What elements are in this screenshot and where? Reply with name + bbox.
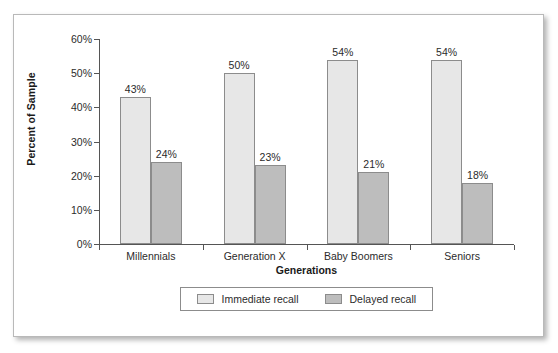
y-tick-mark xyxy=(94,210,99,211)
chart-figure-frame: Percent of Sample 0%10%20%30%40%50%60% 4… xyxy=(13,14,544,337)
bar-seniors-immediate-recall xyxy=(431,60,462,245)
bar-value-label: 21% xyxy=(351,158,397,170)
bar-millennials-immediate-recall xyxy=(120,97,151,244)
x-category-label-baby-boomers: Baby Boomers xyxy=(298,250,418,262)
y-tick-mark xyxy=(94,107,99,108)
y-tick-mark xyxy=(94,142,99,143)
bar-baby-boomers-immediate-recall xyxy=(327,60,358,245)
bar-value-label: 18% xyxy=(455,169,501,181)
y-tick-mark xyxy=(94,73,99,74)
x-category-label-millennials: Millennials xyxy=(91,250,211,262)
y-tick-label: 60% xyxy=(46,34,92,44)
bar-seniors-delayed-recall xyxy=(462,183,493,245)
chart-legend: Immediate recallDelayed recall xyxy=(180,287,434,311)
legend-label: Delayed recall xyxy=(350,293,417,305)
legend-entry-delayed-recall[interactable]: Delayed recall xyxy=(325,293,417,305)
x-category-label-seniors: Seniors xyxy=(402,250,522,262)
bar-generation-x-delayed-recall xyxy=(255,165,286,244)
y-tick-label: 30% xyxy=(46,137,92,147)
y-axis-tick-labels: 0%10%20%30%40%50%60% xyxy=(42,15,92,255)
y-tick-label: 10% xyxy=(46,205,92,215)
bar-value-label: 43% xyxy=(112,83,158,95)
bar-baby-boomers-delayed-recall xyxy=(358,172,389,244)
x-category-label-generation-x: Generation X xyxy=(195,250,315,262)
bar-value-label: 50% xyxy=(216,59,262,71)
bar-millennials-delayed-recall xyxy=(151,162,182,244)
y-tick-mark xyxy=(94,176,99,177)
legend-label: Immediate recall xyxy=(222,293,299,305)
bar-value-label: 54% xyxy=(424,46,470,58)
y-tick-label: 50% xyxy=(46,68,92,78)
y-tick-label: 20% xyxy=(46,171,92,181)
legend-entry-immediate-recall[interactable]: Immediate recall xyxy=(197,293,299,305)
bar-value-label: 23% xyxy=(247,151,293,163)
y-tick-mark xyxy=(94,39,99,40)
bar-value-label: 24% xyxy=(143,148,189,160)
y-axis-line xyxy=(99,39,100,245)
x-axis-title: Generations xyxy=(99,264,514,276)
bar-value-label: 54% xyxy=(320,46,366,58)
y-axis-title: Percent of Sample xyxy=(25,39,37,199)
legend-swatch-icon xyxy=(325,294,342,304)
y-tick-label: 40% xyxy=(46,102,92,112)
chart-plot-area: Percent of Sample 0%10%20%30%40%50%60% 4… xyxy=(14,15,545,338)
y-tick-label: 0% xyxy=(46,239,92,249)
legend-swatch-icon xyxy=(197,294,214,304)
